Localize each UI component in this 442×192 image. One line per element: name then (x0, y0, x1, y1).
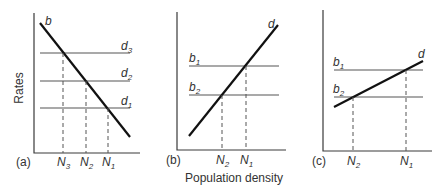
y-axis-label: Rates (12, 72, 26, 103)
panel-a-n3-label: N3 (57, 155, 71, 171)
panel-c-n1-label: N1 (400, 154, 413, 170)
panel-a-b-line (40, 23, 130, 137)
panel-c-b2-label: b2 (333, 82, 345, 98)
panel-a-d1-label: d1 (121, 94, 132, 110)
panel-b-b2-label: b2 (189, 80, 201, 96)
panel-a-d3-label: d3 (121, 39, 133, 55)
panel-c: d b1 b2 N2 N1 (c) (312, 10, 432, 170)
panel-c-b1-label: b1 (333, 55, 344, 71)
panel-b-n2-label: N2 (216, 153, 230, 169)
panel-c-label: (c) (312, 154, 326, 168)
density-dependence-diagram: Rates b d3 d2 d1 N3 N2 N1 (a) d b1 b2 N2… (0, 0, 442, 192)
panel-c-d-label: d (418, 47, 425, 61)
panel-c-d-line (334, 61, 423, 107)
x-axis-label: Population density (185, 171, 283, 185)
panel-b-label: (b) (166, 153, 181, 167)
panel-c-axes (323, 10, 432, 151)
panel-c-n2-label: N2 (347, 154, 361, 170)
panel-b: d b1 b2 N2 N1 (b) Population density (166, 12, 286, 185)
panel-a-n1-label: N1 (102, 155, 115, 171)
panel-b-d-label: d (268, 17, 275, 31)
panel-a-n2-label: N2 (80, 155, 94, 171)
panel-a: b d3 d2 d1 N3 N2 N1 (a) (16, 13, 140, 171)
panel-a-label: (a) (16, 155, 31, 169)
panel-a-d2-label: d2 (121, 66, 133, 82)
panel-a-b-label: b (45, 14, 52, 28)
panel-b-d-line (189, 25, 278, 136)
panel-b-b1-label: b1 (189, 51, 200, 67)
panel-b-n1-label: N1 (240, 153, 253, 169)
